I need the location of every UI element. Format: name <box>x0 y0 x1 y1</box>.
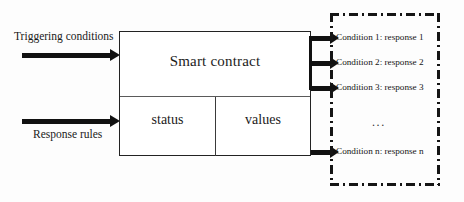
output-bus-line <box>309 36 312 90</box>
condition-2-label: Condition 2: response 2 <box>336 57 424 67</box>
condition-3-label: Condition 3: response 3 <box>336 82 424 92</box>
triggering-conditions-arrow-icon <box>22 53 111 58</box>
input-label-triggering-conditions: Triggering conditions <box>14 30 114 42</box>
output-arrow-condition-n-icon <box>311 150 330 155</box>
output-arrow-condition-1-icon <box>311 36 330 41</box>
contract-cell-values: values <box>216 112 310 128</box>
conditions-box-top-border <box>330 13 440 16</box>
output-arrow-condition-2-icon <box>311 61 330 66</box>
conditions-ellipsis: ... <box>372 115 386 130</box>
response-rules-arrow-icon <box>22 119 111 124</box>
smart-contract-diagram: Triggering conditions Response rules Sma… <box>0 0 464 202</box>
conditions-box-left-border <box>330 13 333 185</box>
condition-n-label: Condition n: response n <box>336 146 424 156</box>
condition-1-label: Condition 1: response 1 <box>336 32 424 42</box>
smart-contract-title: Smart contract <box>119 53 311 70</box>
input-label-response-rules: Response rules <box>33 128 102 140</box>
contract-cell-status: status <box>120 112 215 128</box>
conditions-box-bottom-border <box>330 183 440 186</box>
output-arrow-condition-3-icon <box>311 86 330 91</box>
conditions-box-right-border <box>437 13 440 185</box>
